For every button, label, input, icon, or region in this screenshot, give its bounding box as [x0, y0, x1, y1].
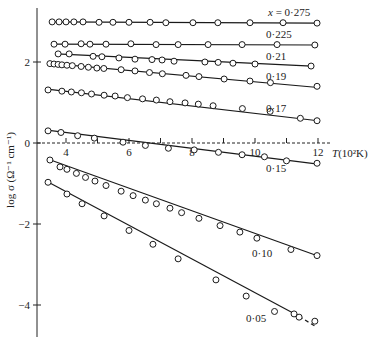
data-point-marker — [297, 115, 303, 121]
data-point-marker — [99, 54, 105, 60]
series-0-225: 0·225 — [51, 28, 318, 48]
data-point-marker — [247, 20, 253, 26]
data-point-marker — [243, 293, 249, 299]
series-label: 0·19 — [266, 70, 287, 82]
data-point-marker — [314, 20, 320, 26]
data-point-marker — [296, 314, 302, 320]
data-point-marker — [312, 318, 318, 324]
data-point-marker — [92, 178, 98, 184]
data-point-marker — [142, 197, 148, 203]
data-point-marker — [237, 229, 243, 235]
data-point-marker — [132, 68, 138, 74]
data-point-marker — [314, 160, 320, 166]
data-point-marker — [73, 170, 79, 176]
data-point-marker — [230, 60, 236, 66]
data-point-marker — [45, 128, 51, 134]
data-point-marker — [195, 101, 201, 107]
data-point-marker — [112, 93, 118, 99]
data-point-marker — [167, 99, 173, 105]
data-point-marker — [159, 71, 165, 77]
data-point-marker — [124, 95, 130, 101]
series-label: 0·17 — [266, 102, 287, 114]
data-point-marker — [146, 70, 152, 76]
data-point-marker — [96, 19, 102, 25]
data-point-marker — [101, 213, 107, 219]
data-point-marker — [57, 164, 63, 170]
data-point-marker — [94, 65, 100, 71]
data-point-marker — [47, 157, 53, 163]
data-point-marker — [215, 59, 221, 65]
data-point-marker — [56, 19, 62, 25]
data-point-marker — [217, 223, 223, 229]
data-point-marker — [153, 42, 159, 48]
data-point-marker — [128, 41, 134, 47]
data-point-marker — [118, 67, 124, 73]
data-point-marker — [126, 19, 132, 25]
x-axis-title: T(10²K) — [332, 147, 368, 160]
data-point-marker — [51, 41, 57, 47]
data-point-marker — [78, 41, 84, 47]
data-point-marker — [175, 42, 181, 48]
data-point-marker — [63, 19, 69, 25]
data-point-marker — [118, 188, 124, 194]
data-point-marker — [163, 20, 169, 26]
data-point-marker — [103, 41, 109, 47]
y-tick-label: −4 — [18, 299, 30, 311]
x-tick-label: 4 — [63, 146, 69, 158]
data-point-marker — [254, 235, 260, 241]
data-point-marker — [64, 191, 70, 197]
fit-line — [47, 130, 318, 164]
data-point-marker — [130, 193, 136, 199]
series-label: 0·21 — [266, 50, 286, 62]
data-point-marker — [85, 64, 91, 70]
data-point-marker — [150, 241, 156, 247]
data-point-marker — [239, 152, 245, 158]
data-point-marker — [196, 74, 202, 80]
data-point-marker — [69, 63, 75, 69]
data-point-marker — [68, 89, 74, 95]
data-point-marker — [153, 97, 159, 103]
data-point-marker — [175, 256, 181, 262]
fit-line — [50, 22, 318, 23]
y-tick-label: 2 — [25, 56, 31, 68]
y-tick-label: −2 — [18, 218, 30, 230]
data-point-marker — [71, 19, 77, 25]
series-label: 0·15 — [266, 162, 287, 174]
data-point-marker — [55, 51, 61, 57]
data-point-marker — [247, 78, 253, 84]
data-point-marker — [75, 133, 81, 139]
data-point-marker — [312, 42, 318, 48]
data-point-marker — [132, 56, 138, 62]
data-point-marker — [78, 63, 84, 69]
data-point-marker — [103, 183, 109, 189]
data-point-marker — [64, 166, 70, 172]
data-point-marker — [272, 308, 278, 314]
data-point-marker — [62, 41, 68, 47]
data-point-marker — [45, 87, 51, 93]
data-point-marker — [49, 19, 55, 25]
data-point-marker — [87, 41, 93, 47]
series-label: 0·225 — [266, 28, 292, 40]
x-tick-label: 12 — [313, 146, 324, 158]
data-point-marker — [165, 145, 171, 151]
data-point-marker — [83, 174, 89, 180]
series-x-0-275: x = 0·275 — [49, 6, 320, 26]
data-point-marker — [252, 61, 258, 67]
data-point-marker — [59, 88, 65, 94]
data-point-marker — [126, 227, 132, 233]
series-label: 0·10 — [252, 247, 273, 259]
data-point-marker — [140, 96, 146, 102]
data-point-marker — [171, 58, 177, 64]
data-point-marker — [167, 205, 173, 211]
data-point-marker — [78, 90, 84, 96]
data-point-marker — [116, 55, 122, 61]
data-point-marker — [80, 19, 86, 25]
data-point-marker — [159, 57, 165, 63]
series-label: x = 0·275 — [267, 6, 311, 18]
series-0-05: 0·05 — [45, 179, 318, 326]
data-point-marker — [314, 118, 320, 124]
data-point-marker — [239, 106, 245, 112]
data-point-marker — [79, 201, 85, 207]
data-point-marker — [89, 91, 95, 97]
series-group: x = 0·2750·2250·210·190·170·150·100·05 — [45, 6, 320, 326]
